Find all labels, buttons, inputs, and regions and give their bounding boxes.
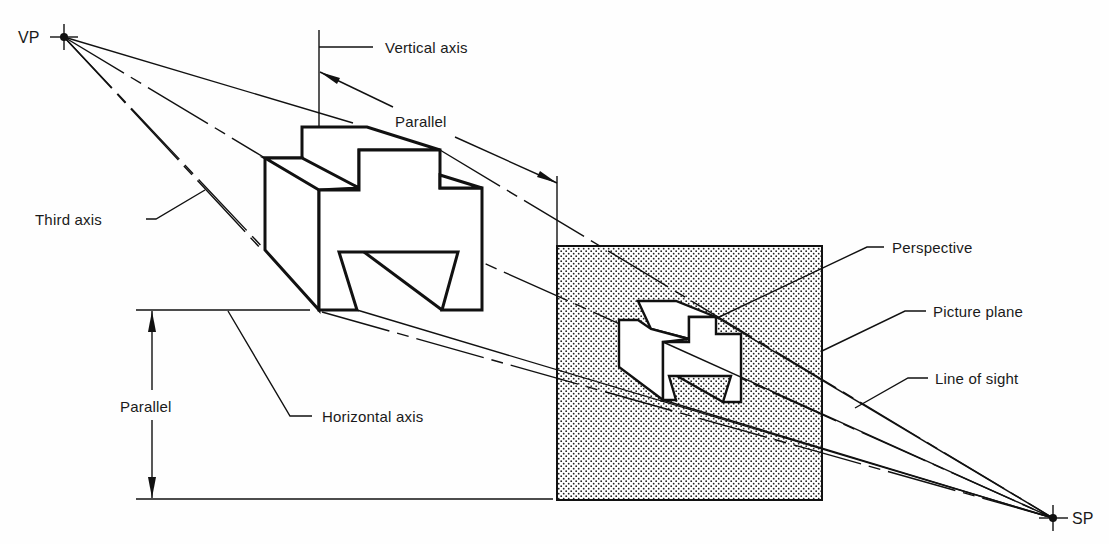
- vertical-axis-label: Vertical axis: [385, 40, 468, 55]
- third-axis-label: Third axis: [35, 212, 102, 227]
- sp-marker: [1039, 505, 1068, 531]
- large-object: [265, 127, 482, 310]
- diagram-svg: [0, 0, 1109, 544]
- perspective-label: Perspective: [892, 240, 973, 255]
- sp-label: SP: [1072, 511, 1094, 527]
- line-of-sight-label: Line of sight: [935, 371, 1019, 386]
- parallel-left-label: Parallel: [120, 399, 172, 414]
- horizontal-axis-label: Horizontal axis: [322, 409, 423, 424]
- perspective-diagram: VP SP Vertical axis Parallel Third axis …: [0, 0, 1109, 544]
- vp-marker: [50, 24, 78, 50]
- parallel-top-label: Parallel: [395, 114, 447, 129]
- picture-plane-label: Picture plane: [933, 304, 1023, 319]
- vp-label: VP: [18, 30, 40, 46]
